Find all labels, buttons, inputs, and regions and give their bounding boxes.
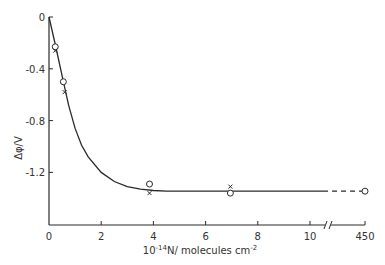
data-point-cross <box>228 185 232 189</box>
x-tick-label: 10 <box>304 231 317 242</box>
axes: 02468104500-0.4-0.8-1.2 <box>25 12 374 242</box>
y-tick-label: -1.2 <box>25 167 45 178</box>
marks <box>49 17 368 196</box>
x-tick-label: 4 <box>150 231 156 242</box>
x-tick-label: 6 <box>202 231 208 242</box>
y-tick-label: -0.4 <box>25 64 45 75</box>
x-tick-label: 2 <box>98 231 104 242</box>
x-tick-label: 0 <box>46 231 52 242</box>
y-tick-label: -0.8 <box>25 116 45 127</box>
data-point-circle <box>60 79 66 85</box>
x-axis-title-superscript: -14 <box>156 244 168 252</box>
chart: 02468104500-0.4-0.8-1.2 Δφ/V 10-14N/ mol… <box>0 0 385 265</box>
y-axis-title: Δφ/V <box>13 136 24 160</box>
y-tick-label: 0 <box>39 12 45 23</box>
x-axis-title-part: 10 <box>143 245 156 256</box>
x-axis-title-superscript: -2 <box>250 244 257 252</box>
x-axis-title-part: N/ molecules cm <box>167 245 250 256</box>
x-tick-label-far: 450 <box>355 231 374 242</box>
extrapolation-end-circle <box>362 188 368 194</box>
data-point-cross <box>147 191 151 195</box>
data-point-circle <box>227 190 233 196</box>
data-point-circle <box>146 181 152 187</box>
x-tick-label: 8 <box>255 231 261 242</box>
fit-curve-line <box>49 17 323 191</box>
x-axis-title: 10-14N/ molecules cm-2 <box>143 244 257 256</box>
